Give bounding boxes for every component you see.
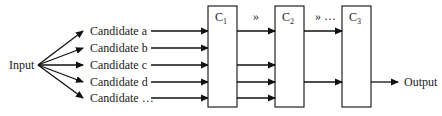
candidate-label: Candidate a — [90, 24, 148, 38]
arrow-to-candidate-a — [38, 31, 83, 65]
candidate-label: Candidate c — [90, 58, 147, 72]
arrow-to-candidate-d — [38, 65, 83, 82]
classifier-c2: C2 — [275, 6, 304, 107]
stage-separator: » … — [315, 9, 336, 23]
c2-to-c3-arrows — [304, 31, 342, 82]
stage-separator: » — [253, 9, 259, 23]
arrow-to-candidate-more — [38, 65, 83, 98]
candidate-label: Candidate b — [90, 41, 148, 55]
candidate-list: Candidate a Candidate b Candidate c Cand… — [90, 24, 154, 105]
classifier-c1: C1 — [208, 6, 237, 107]
c1-to-c2-arrows — [237, 31, 275, 98]
cascade-diagram: Input Candidate a Candidate b Candidate … — [0, 0, 442, 116]
output-label: Output — [404, 75, 438, 89]
arrow-to-candidate-b — [38, 48, 83, 65]
candidate-to-c1-arrows — [151, 31, 208, 98]
input-label: Input — [9, 58, 35, 72]
fanout-arrows — [38, 31, 83, 98]
candidate-label: Candidate d — [90, 75, 148, 89]
candidate-label: Candidate … — [90, 91, 154, 105]
classifier-c3: C3 — [342, 6, 371, 107]
